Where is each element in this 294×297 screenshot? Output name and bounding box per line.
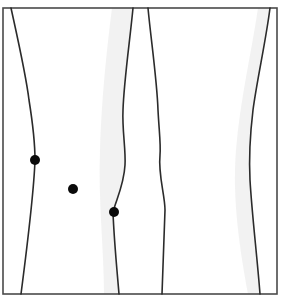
right-leg-shading <box>235 8 270 294</box>
marker-medial-joint-line <box>30 155 40 165</box>
marker-center <box>68 184 78 194</box>
knee-diagram <box>0 0 294 297</box>
knee-diagram-svg <box>0 0 294 297</box>
left-leg-outer-contour <box>11 8 35 294</box>
diagram-frame <box>3 8 277 294</box>
marker-lateral-joint-line <box>109 207 119 217</box>
right-leg-inner-contour <box>148 8 165 294</box>
leg-contours <box>11 8 270 294</box>
